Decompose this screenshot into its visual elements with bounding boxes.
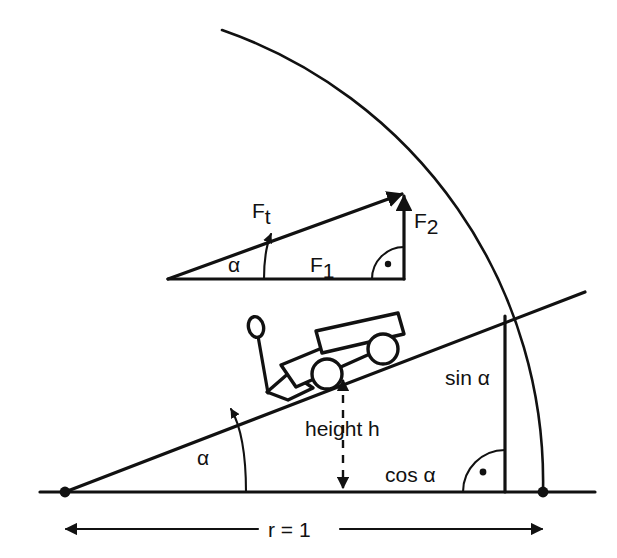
incline-line [65, 292, 585, 492]
diagram-canvas: α sin α cos α height h r = 1 α Ft [0, 0, 617, 558]
force-f2-label-subscript: 2 [427, 215, 439, 238]
cart-wheel-rear [312, 359, 342, 389]
height-label: height h [305, 417, 380, 440]
force-f2-label-base: F [414, 209, 427, 232]
unit-circle-arc [222, 30, 543, 492]
force-ft-label-subscript: t [265, 205, 271, 228]
force-f1-label-subscript: 1 [323, 259, 335, 282]
radius-label: r = 1 [268, 518, 311, 541]
cart-wheel-front [368, 334, 398, 364]
force-ft-label: Ft [252, 199, 271, 228]
origin-point-dot [60, 487, 71, 498]
cart-handle-shaft [258, 336, 268, 393]
incline-angle-arc [231, 409, 246, 492]
sine-right-angle-dot [480, 469, 487, 476]
force-f1-label-base: F [310, 253, 323, 276]
force-triangle-right-angle-dot [385, 261, 391, 267]
force-ft-line [168, 194, 402, 279]
cosine-label: cos α [385, 463, 436, 486]
sine-label: sin α [445, 366, 490, 389]
force-f2-label: F2 [414, 209, 439, 238]
cart-handle-loop-icon [246, 315, 265, 339]
figure-root: α sin α cos α height h r = 1 α Ft [0, 0, 617, 558]
cart-group [246, 313, 404, 400]
incline-angle-label: α [197, 446, 209, 469]
force-triangle-angle-label: α [228, 253, 240, 276]
arc-endpoint-dot [538, 487, 549, 498]
force-ft-label-base: F [252, 199, 265, 222]
